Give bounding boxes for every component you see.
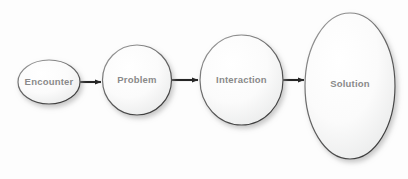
diagram-canvas: Encounter Problem Interaction Solution xyxy=(0,0,408,179)
node-solution-label: Solution xyxy=(330,78,370,89)
node-encounter[interactable]: Encounter xyxy=(18,60,80,104)
flow-diagram: Encounter Problem Interaction Solution xyxy=(0,0,408,179)
node-encounter-label: Encounter xyxy=(25,76,74,87)
node-interaction[interactable]: Interaction xyxy=(200,35,283,125)
node-problem-label: Problem xyxy=(117,74,156,85)
node-interaction-label: Interaction xyxy=(216,74,267,85)
node-solution[interactable]: Solution xyxy=(305,13,395,159)
node-problem[interactable]: Problem xyxy=(103,45,172,115)
